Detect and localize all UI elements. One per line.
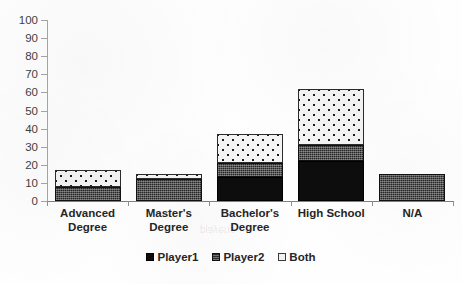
category-label-line: Advanced [47, 206, 128, 220]
bar-segment-both[interactable] [55, 170, 121, 186]
y-tick [41, 111, 47, 112]
y-tick [41, 74, 47, 75]
y-tick-label: 80 [0, 50, 38, 62]
bar-segment-player2[interactable] [379, 174, 445, 201]
solid-black-swatch [146, 253, 154, 261]
x-tick [453, 201, 454, 206]
legend-item-player1[interactable]: Player1 [146, 251, 198, 263]
y-tick-label: 90 [0, 32, 38, 44]
y-tick-label: 30 [0, 141, 38, 153]
legend-label: Player1 [157, 251, 198, 263]
category-label-line: Bachelor's [209, 206, 290, 220]
category-label: N/A [372, 206, 453, 220]
bar-advanced-degree[interactable] [55, 20, 121, 201]
y-tick [41, 56, 47, 57]
y-tick-label: 100 [0, 14, 38, 26]
y-tick [41, 20, 47, 21]
category-label: High School [291, 206, 372, 220]
bar-master-s-degree[interactable] [136, 20, 202, 201]
chart-legend: Player1Player2Both [0, 251, 462, 263]
bar-bachelor-s-degree[interactable] [217, 20, 283, 201]
bar-n-a[interactable] [379, 20, 445, 201]
legend-item-player2[interactable]: Player2 [212, 251, 264, 263]
y-tick-label: 70 [0, 68, 38, 80]
bar-high-school[interactable] [298, 20, 364, 201]
y-tick-label: 40 [0, 123, 38, 135]
outlined-white-swatch [278, 253, 286, 261]
y-tick [41, 129, 47, 130]
category-label-line: Degree [128, 220, 209, 234]
bar-segment-both[interactable] [217, 134, 283, 163]
bar-segment-player2[interactable] [55, 187, 121, 201]
category-label-line: High School [291, 206, 372, 220]
y-tick [41, 92, 47, 93]
legend-label: Both [289, 251, 315, 263]
stacked-bar-chart: 1009080706050403020100 AdvancedDegreeMas… [0, 0, 462, 284]
y-axis-line [47, 20, 48, 202]
category-label-line: Degree [47, 220, 128, 234]
category-label-line: Master's [128, 206, 209, 220]
category-label: AdvancedDegree [47, 206, 128, 234]
bar-segment-player2[interactable] [136, 179, 202, 201]
bar-segment-player2[interactable] [298, 145, 364, 161]
legend-item-both[interactable]: Both [278, 251, 315, 263]
crosshatch-swatch [212, 253, 220, 261]
y-tick [41, 183, 47, 184]
legend-label: Player2 [223, 251, 264, 263]
category-label-line: N/A [372, 206, 453, 220]
y-tick-label: 0 [0, 195, 38, 207]
y-tick-label: 10 [0, 177, 38, 189]
bar-segment-player1[interactable] [298, 161, 364, 201]
y-tick [41, 165, 47, 166]
bar-segment-player2[interactable] [217, 163, 283, 177]
x-axis-line [47, 201, 453, 202]
y-tick-label: 50 [0, 105, 38, 117]
bar-segment-both[interactable] [136, 174, 202, 179]
bar-segment-player1[interactable] [217, 177, 283, 201]
y-tick [41, 38, 47, 39]
bar-segment-both[interactable] [298, 89, 364, 145]
y-tick-label: 60 [0, 86, 38, 98]
y-tick [41, 147, 47, 148]
category-label: Bachelor'sDegree [209, 206, 290, 234]
category-label: Master'sDegree [128, 206, 209, 234]
y-tick-label: 20 [0, 159, 38, 171]
category-label-line: Degree [209, 220, 290, 234]
